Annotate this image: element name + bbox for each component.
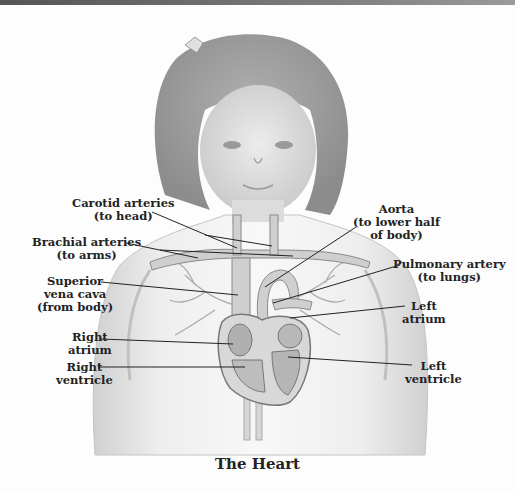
label-carotid-arteries: Carotid arteries (to head): [72, 197, 174, 223]
face: [200, 85, 316, 222]
diagram-title: The Heart: [0, 455, 515, 473]
label-left-ventricle: Left ventricle: [405, 360, 462, 386]
label-aorta: Aorta (to lower half of body): [353, 203, 440, 242]
label-pulmonary-artery: Pulmonary artery (to lungs): [393, 258, 506, 284]
label-line: of body): [353, 229, 440, 242]
label-right-atrium: Right atrium: [68, 331, 112, 357]
label-left-atrium: Left atrium: [402, 300, 446, 326]
label-line: (to arms): [32, 249, 141, 262]
label-right-ventricle: Right ventricle: [56, 361, 113, 387]
label-brachial-arteries: Brachial arteries (to arms): [32, 236, 141, 262]
label-line: ventricle: [405, 373, 462, 386]
label-line: atrium: [402, 313, 446, 326]
label-line: atrium: [68, 344, 112, 357]
label-line: (to head): [72, 210, 174, 223]
label-line: ventricle: [56, 374, 113, 387]
label-line: (from body): [37, 301, 113, 314]
label-superior-vena-cava: Superior vena cava (from body): [37, 275, 113, 314]
label-line: (to lungs): [393, 271, 506, 284]
